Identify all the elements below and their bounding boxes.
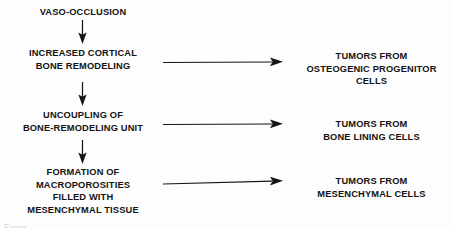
node-tumors-osteogenic-progenitor-cells: TUMORS FROM OSTEOGENIC PROGENITOR CELLS bbox=[290, 50, 453, 88]
arrow-cortical-to-osteogenic bbox=[163, 57, 283, 66]
node-tumors-mesenchymal-cells: TUMORS FROM MESENCHYMAL CELLS bbox=[290, 175, 453, 200]
cropped-caption-fragment: Figure bbox=[4, 223, 234, 228]
node-increased-cortical-bone-remodeling: INCREASED CORTICAL BONE REMODELING bbox=[0, 47, 166, 72]
node-uncoupling-of-bone-remodeling-unit: UNCOUPLING OF BONE-REMODELING UNIT bbox=[0, 109, 166, 134]
arrow-cortical-to-uncoupling bbox=[78, 82, 86, 106]
flowchart-diagram: VASO-OCCLUSION INCREASED CORTICAL BONE R… bbox=[0, 0, 453, 228]
node-tumors-bone-lining-cells: TUMORS FROM BONE LINING CELLS bbox=[290, 118, 453, 143]
node-vaso-occlusion: VASO-OCCLUSION bbox=[0, 6, 166, 19]
arrow-uncoupling-to-macroporosities bbox=[78, 140, 86, 164]
arrow-uncoupling-to-bone-lining bbox=[163, 119, 283, 128]
arrow-macroporosities-to-mesenchymal bbox=[163, 177, 283, 186]
arrow-vaso-to-cortical bbox=[78, 20, 86, 44]
node-formation-of-macroporosities: FORMATION OF MACROPOROSITIES FILLED WITH… bbox=[0, 166, 166, 216]
